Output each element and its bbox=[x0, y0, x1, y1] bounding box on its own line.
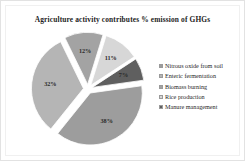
legend-swatch-icon bbox=[159, 95, 163, 99]
legend-item[interactable]: Biomass burning bbox=[159, 82, 243, 92]
legend-swatch-icon bbox=[159, 105, 163, 109]
legend-item[interactable]: Enteric fermentation bbox=[159, 71, 243, 81]
legend-item[interactable]: Manure management bbox=[159, 102, 243, 112]
chart-figure: Agriculture activity contributes % emiss… bbox=[0, 0, 245, 161]
pie-slice-value-label: 7% bbox=[119, 71, 128, 78]
pie-slice-value-label: 38% bbox=[101, 117, 113, 124]
pie-chart-plot-area: 38%32%12%11%7% bbox=[15, 27, 163, 155]
legend-item-label: Rice production bbox=[165, 94, 205, 100]
legend-swatch-icon bbox=[159, 64, 163, 68]
legend-item-label: Nitrous oxide from soil bbox=[165, 63, 223, 69]
legend-item[interactable]: Nitrous oxide from soil bbox=[159, 61, 243, 71]
pie-slice-value-label: 32% bbox=[44, 80, 56, 87]
chart-title: Agriculture activity contributes % emiss… bbox=[1, 15, 244, 24]
legend-item-label: Manure management bbox=[165, 104, 217, 110]
legend-item-label: Enteric fermentation bbox=[165, 73, 216, 79]
legend-swatch-icon bbox=[159, 85, 163, 89]
legend-item-label: Biomass burning bbox=[165, 84, 207, 90]
chart-legend: Nitrous oxide from soilEnteric fermentat… bbox=[159, 61, 243, 112]
pie-slice-value-label: 11% bbox=[105, 54, 117, 61]
legend-item[interactable]: Rice production bbox=[159, 92, 243, 102]
pie-slice-value-label: 12% bbox=[79, 47, 91, 54]
legend-swatch-icon bbox=[159, 74, 163, 78]
pie-chart-svg: 38%32%12%11%7% bbox=[15, 27, 163, 155]
